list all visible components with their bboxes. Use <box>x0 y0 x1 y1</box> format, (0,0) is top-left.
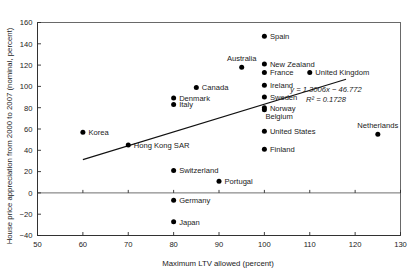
y-tick-label: 60 <box>24 125 32 134</box>
point-label: Spain <box>270 32 289 41</box>
x-tick-label: 60 <box>79 240 87 249</box>
point-marker <box>307 70 312 75</box>
data-point: Korea <box>80 128 109 137</box>
chart-canvas: 5060708090100110120130 −40−2002040608010… <box>0 0 417 272</box>
data-point: Australia <box>227 54 257 70</box>
point-label: Korea <box>88 128 109 137</box>
y-axis-title: House price appreciation from 2000 to 20… <box>5 27 14 244</box>
point-marker <box>262 70 267 75</box>
y-tick-label: 20 <box>24 167 32 176</box>
x-tick-label: 80 <box>169 240 177 249</box>
point-marker <box>217 179 222 184</box>
y-tick-label: 120 <box>20 61 33 70</box>
y-tick-label: 160 <box>20 18 33 27</box>
x-tick-label: 50 <box>33 240 41 249</box>
point-label: Sweden <box>270 93 297 102</box>
x-axis-title: Maximum LTV allowed (percent) <box>162 259 274 268</box>
point-marker <box>171 168 176 173</box>
regression-equation-annotation: y = 1.3006x − 46.772R² = 0.1728 <box>289 85 362 104</box>
point-marker <box>171 96 176 101</box>
point-marker <box>194 85 199 90</box>
x-tick-label: 100 <box>258 240 271 249</box>
y-tick-label: 40 <box>24 146 32 155</box>
data-point: Canada <box>194 83 229 92</box>
y-tick-label: −20 <box>20 210 33 219</box>
point-label: United Kingdom <box>315 68 369 77</box>
point-label: Norway <box>270 104 296 113</box>
data-point: Japan <box>171 218 200 227</box>
point-label: Canada <box>202 83 229 92</box>
x-tick-label: 90 <box>215 240 223 249</box>
x-tick-label: 70 <box>124 240 132 249</box>
point-marker <box>262 129 267 134</box>
point-label: France <box>270 68 294 77</box>
point-label: Belgium <box>265 112 292 121</box>
point-label: Germany <box>179 196 210 205</box>
point-label: Hong Kong SAR <box>134 141 190 150</box>
data-point: Sweden <box>262 93 297 102</box>
y-tick-label: 0 <box>28 189 32 198</box>
scatter-chart: 5060708090100110120130 −40−2002040608010… <box>0 0 417 272</box>
data-point: Portugal <box>217 177 254 186</box>
point-marker <box>171 102 176 107</box>
data-point: Norway <box>262 104 296 113</box>
point-marker <box>239 65 244 70</box>
point-marker <box>262 83 267 88</box>
regression-equation-text: y = 1.3006x − 46.772 <box>289 85 362 94</box>
point-label: United States <box>270 127 316 136</box>
point-label: Netherlands <box>357 121 398 130</box>
data-point: Finland <box>262 145 295 154</box>
point-marker <box>375 132 380 137</box>
y-tick-label: 140 <box>20 40 33 49</box>
point-marker <box>262 62 267 67</box>
y-tick-label: 80 <box>24 104 32 113</box>
data-point: France <box>262 68 294 77</box>
r-squared-text: R² = 0.1728 <box>306 95 347 104</box>
point-label: Switzerland <box>179 166 218 175</box>
data-points: KoreaHong Kong SARDenmarkItalySwitzerlan… <box>80 32 398 226</box>
data-point: Netherlands <box>357 121 398 137</box>
x-tick-label: 120 <box>349 240 362 249</box>
point-label: Finland <box>270 145 295 154</box>
data-point: Spain <box>262 32 289 41</box>
data-point: Germany <box>171 196 210 205</box>
point-label: Portugal <box>225 177 254 186</box>
point-marker <box>262 147 267 152</box>
point-marker <box>171 219 176 224</box>
x-axis-ticks: 5060708090100110120130 <box>33 190 407 249</box>
point-marker <box>171 198 176 203</box>
x-tick-label: 130 <box>394 240 407 249</box>
data-point: Italy <box>171 100 193 109</box>
point-label: Japan <box>179 218 200 227</box>
point-marker <box>126 142 131 147</box>
data-point: Ireland <box>262 81 293 90</box>
point-marker <box>262 34 267 39</box>
data-point: United Kingdom <box>307 68 369 77</box>
data-point: Switzerland <box>171 166 218 175</box>
data-point: Hong Kong SAR <box>126 141 190 150</box>
point-label: Italy <box>179 100 193 109</box>
point-label: Australia <box>227 54 257 63</box>
y-tick-label: −40 <box>20 231 33 240</box>
y-tick-label: 100 <box>20 82 33 91</box>
point-marker <box>80 130 85 135</box>
data-point: United States <box>262 127 316 136</box>
point-marker <box>262 95 267 100</box>
x-tick-label: 110 <box>304 240 316 249</box>
